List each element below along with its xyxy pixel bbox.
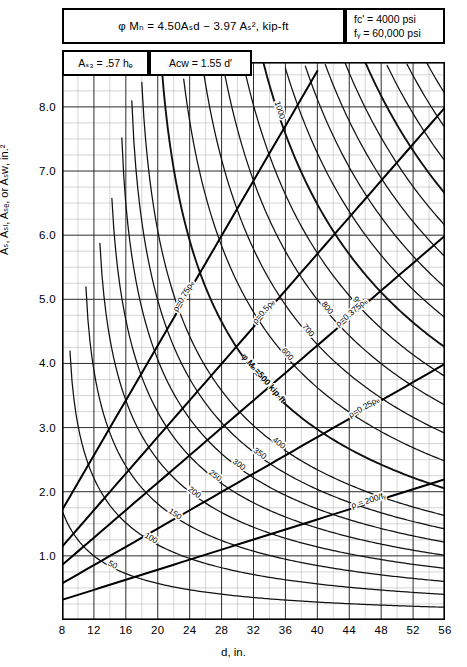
y-tick-label: 6.0 <box>22 229 56 241</box>
acw-text: Aᴄᴡ = 1.55 d' <box>169 57 232 69</box>
y-tick-label: 7.0 <box>22 165 56 177</box>
moment-contour-label-150: 150150 <box>167 506 184 521</box>
acw-formula-box: Aᴄᴡ = 1.55 d' <box>149 50 252 76</box>
moment-contour-label-100: 100100 <box>143 531 160 546</box>
x-tick-label: 36 <box>270 624 300 636</box>
material-properties-box: fᴄ' = 4000 psi fᵧ = 60,000 psi <box>345 8 445 44</box>
svg-text:800: 800 <box>319 300 335 317</box>
y-tick-label: 2.0 <box>22 486 56 498</box>
as3-text: Aₛ₃ = .57 hₑ <box>78 57 132 69</box>
y-tick-label: 4.0 <box>22 357 56 369</box>
x-tick-label: 28 <box>207 624 237 636</box>
y-axis-label: Aₛ, Aₛₗ, Aₛₑ, or Aₛᴡ, in.² <box>0 55 11 255</box>
fc-value: fᴄ' = 4000 psi <box>354 12 421 26</box>
as3-formula-box: Aₛ₃ = .57 hₑ <box>62 50 149 76</box>
y-tick-label: 8.0 <box>22 101 56 113</box>
x-tick-label: 32 <box>239 624 269 636</box>
moment-contour-label-200: 200200 <box>186 485 203 501</box>
moment-contour-label-800: 800800 <box>319 300 335 317</box>
curve-labels: 5050100100150150200200250250300300350350… <box>107 62 404 571</box>
svg-text:200: 200 <box>186 485 203 501</box>
fy-value: fᵧ = 60,000 psi <box>354 26 421 40</box>
equation-text: φ Mₙ = 4.50Aₛd − 3.97 Aₛ², kip-ft <box>118 19 288 33</box>
x-tick-label: 56 <box>430 624 460 636</box>
x-tick-label: 40 <box>302 624 332 636</box>
svg-text:700: 700 <box>300 322 316 339</box>
svg-text:400: 400 <box>271 435 288 451</box>
x-tick-label: 44 <box>334 624 364 636</box>
x-tick-label: 48 <box>366 624 396 636</box>
moment-contour-label-400: 400400 <box>271 435 288 451</box>
svg-text:150: 150 <box>167 506 184 521</box>
equation-header-box: φ Mₙ = 4.50Aₛd − 3.97 Aₛ², kip-ft <box>62 8 345 44</box>
x-tick-label: 20 <box>143 624 173 636</box>
y-tick-label: 1.0 <box>22 550 56 562</box>
svg-text:600: 600 <box>279 346 295 363</box>
moment-contour-label-350: 350350 <box>252 446 269 462</box>
plot-area: 5050100100150150200200250250300300350350… <box>62 62 445 620</box>
y-tick-label: 5.0 <box>22 293 56 305</box>
svg-text:100: 100 <box>143 531 160 546</box>
moment-contour-label-1000: 10001000 <box>273 100 287 121</box>
moment-contour-label-300: 300300 <box>231 457 248 473</box>
chart-svg: 5050100100150150200200250250300300350350… <box>62 62 445 620</box>
rho-0_25-label: ρ=0.25ρₑρ=0.25ρₑ <box>347 394 381 420</box>
major-gridlines <box>62 62 445 620</box>
x-tick-label: 24 <box>175 624 205 636</box>
svg-text:1000: 1000 <box>273 100 287 121</box>
x-tick-label: 8 <box>47 624 77 636</box>
design-chart-page: φ Mₙ = 4.50Aₛd − 3.97 Aₛ², kip-ft fᴄ' = … <box>0 0 467 667</box>
x-tick-label: 52 <box>398 624 428 636</box>
moment-contour-label-700: 700700 <box>300 322 316 339</box>
svg-text:300: 300 <box>231 457 248 473</box>
x-tick-label: 16 <box>111 624 141 636</box>
y-tick-label: 3.0 <box>22 422 56 434</box>
svg-text:ρ=0.25ρₑ: ρ=0.25ρₑ <box>347 394 381 420</box>
x-axis-label: d, in. <box>0 646 467 658</box>
x-tick-label: 12 <box>79 624 109 636</box>
moment-contour-label-600: 600600 <box>279 346 295 363</box>
svg-text:350: 350 <box>252 446 269 462</box>
